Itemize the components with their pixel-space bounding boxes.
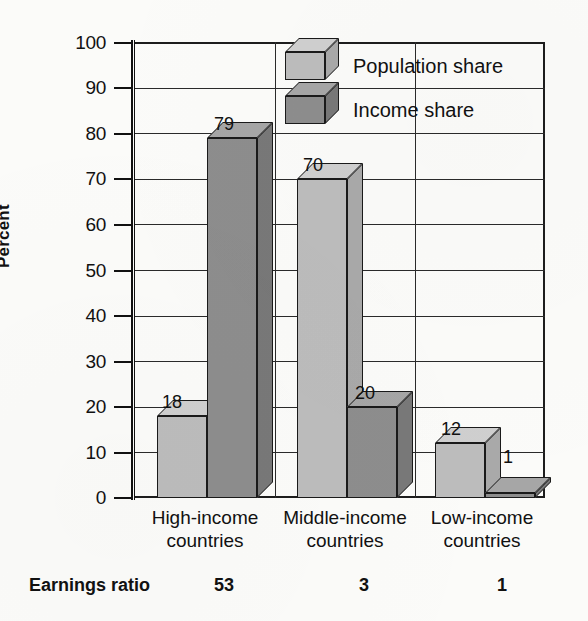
legend-swatch-population-share: [285, 52, 325, 80]
category-line-1: Low-income: [431, 507, 533, 528]
y-tick-mark: [114, 224, 131, 226]
category-line-1: Middle-income: [283, 507, 407, 528]
y-tick-label: 50: [60, 261, 106, 280]
x-axis-category-labels: High-income countries Middle-income coun…: [135, 506, 545, 562]
bar-side-face: [397, 391, 413, 498]
bar-value-label: 70: [303, 156, 323, 174]
y-tick-mark: [114, 406, 131, 408]
bar-low-income-population-share[interactable]: [435, 443, 485, 498]
earnings-ratio-value-middle-income: 3: [324, 575, 404, 596]
earnings-ratio-row: Earnings ratio 53 3 1: [0, 575, 588, 605]
y-tick-mark: [114, 361, 131, 363]
bar-front-face: [297, 179, 347, 498]
y-tick-label: 10: [60, 443, 106, 462]
y-tick-mark: [114, 452, 131, 454]
bar-value-label: 18: [162, 393, 182, 411]
legend-label: Income share: [353, 98, 474, 122]
bar-value-label: 20: [355, 384, 375, 402]
y-tick-mark: [114, 87, 131, 89]
bar-front-face: [207, 138, 257, 498]
y-tick-label: 100: [60, 33, 106, 52]
category-label-low-income: Low-income countries: [407, 506, 557, 552]
y-tick-mark: [114, 315, 131, 317]
legend-swatch-income-share: [285, 96, 325, 124]
category-label-high-income: High-income countries: [130, 506, 280, 552]
bar-high-income-income-share[interactable]: [207, 138, 257, 498]
y-tick-label: 20: [60, 397, 106, 416]
y-tick-label: 0: [60, 488, 106, 507]
chart-figure: Percent 100 90 80 70 60 50 40 30 20 10 0: [0, 0, 588, 621]
plot-frame-top: [135, 42, 545, 44]
earnings-ratio-label: Earnings ratio: [29, 575, 150, 596]
y-tick-mark: [114, 178, 131, 180]
category-label-middle-income: Middle-income countries: [270, 506, 420, 552]
bar-front-face: [435, 443, 485, 498]
bar-value-label: 79: [214, 115, 234, 133]
y-tick-label: 90: [60, 78, 106, 97]
bar-low-income-income-share[interactable]: [485, 493, 535, 498]
gridline-horizontal: [135, 88, 545, 89]
earnings-ratio-value-high-income: 53: [184, 575, 264, 596]
plot-area: 18 79 70 20 12: [135, 42, 545, 498]
legend-label: Population share: [353, 54, 503, 78]
gridline-horizontal: [135, 133, 545, 134]
y-tick-label: 80: [60, 124, 106, 143]
earnings-ratio-value-low-income: 1: [462, 575, 542, 596]
bar-middle-income-income-share[interactable]: [347, 407, 397, 498]
bar-middle-income-population-share[interactable]: [297, 179, 347, 498]
y-tick-mark: [114, 133, 131, 135]
bar-high-income-population-share[interactable]: [157, 416, 207, 498]
category-line-2: countries: [166, 530, 243, 551]
y-tick-label: 30: [60, 352, 106, 371]
bar-side-face: [257, 122, 273, 498]
category-line-2: countries: [443, 530, 520, 551]
category-line-2: countries: [306, 530, 383, 551]
y-axis-title: Percent: [0, 204, 14, 268]
bar-front-face: [485, 493, 535, 498]
y-tick-mark: [114, 42, 131, 44]
y-tick-mark: [114, 497, 131, 499]
y-tick-mark: [114, 270, 131, 272]
bar-value-label: 12: [441, 420, 461, 438]
y-tick-label: 40: [60, 306, 106, 325]
y-tick-label: 70: [60, 169, 106, 188]
bar-front-face: [347, 407, 397, 498]
bar-value-label: 1: [503, 448, 513, 466]
category-line-1: High-income: [152, 507, 259, 528]
y-tick-label: 60: [60, 215, 106, 234]
bar-front-face: [157, 416, 207, 498]
gridline-vertical: [275, 42, 276, 498]
